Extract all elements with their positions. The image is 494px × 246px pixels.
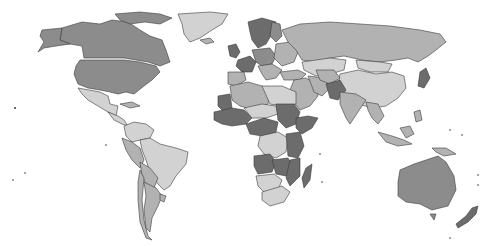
world-choropleth-map xyxy=(0,0,494,246)
